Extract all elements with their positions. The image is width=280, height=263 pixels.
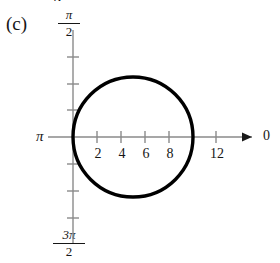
polar-plot-figure: π (c) π 2 3π 2 π 0 2 4 6 8 12 xyxy=(0,0,280,263)
horizontal-axis-group xyxy=(48,133,252,142)
horizontal-axis-arrowhead xyxy=(242,133,252,142)
plot-canvas xyxy=(0,0,280,263)
